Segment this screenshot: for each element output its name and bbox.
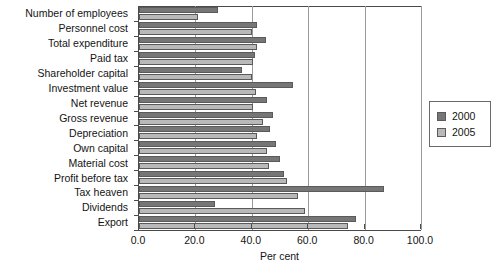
x-axis-tick-mark (194, 224, 195, 229)
bar-group (139, 21, 421, 36)
bar-2005 (139, 29, 252, 35)
bar-2000 (139, 112, 273, 118)
x-axis-tick-label: 80.0 (353, 234, 373, 246)
bar-group (139, 125, 421, 140)
y-axis-label: Dividends (0, 200, 133, 215)
x-axis-tick-label: 60.0 (297, 234, 317, 246)
x-axis-tick-label: 0.0 (131, 234, 146, 246)
chart-legend: 20002005 (429, 101, 491, 147)
bar-group (139, 111, 421, 126)
x-axis-tick-mark (420, 224, 421, 229)
bar-group (139, 96, 421, 111)
bar-2000 (139, 22, 257, 28)
bar-2000 (139, 186, 384, 192)
y-axis-label: Investment value (0, 81, 133, 96)
legend-label: 2005 (452, 127, 475, 138)
y-axis-label: Own capital (0, 140, 133, 155)
y-axis-label: Material cost (0, 155, 133, 170)
bar-group (139, 66, 421, 81)
legend-item: 2000 (437, 108, 484, 124)
x-axis-tick-mark (138, 224, 139, 229)
bar-2005 (139, 208, 305, 214)
y-axis-label: Number of employees (0, 6, 133, 21)
bar-group (139, 81, 421, 96)
x-axis-tick-label: 20.0 (184, 234, 204, 246)
bar-2005 (139, 44, 257, 50)
bar-2005 (139, 193, 298, 199)
bar-2000 (139, 201, 215, 207)
bar-2000 (139, 171, 284, 177)
y-axis-label: Tax heaven (0, 185, 133, 200)
y-axis-label: Total expenditure (0, 36, 133, 51)
y-axis-label: Net revenue (0, 96, 133, 111)
legend-item: 2005 (437, 124, 484, 140)
bar-2000 (139, 82, 293, 88)
x-axis-tick-label: 100.0 (407, 234, 433, 246)
bar-2000 (139, 97, 267, 103)
gridline (421, 6, 422, 230)
bar-group (139, 170, 421, 185)
legend-swatch-icon (437, 112, 446, 121)
plot-area (138, 6, 421, 230)
bar-group (139, 155, 421, 170)
bar-2000 (139, 52, 255, 58)
bar-group (139, 140, 421, 155)
bar-2005 (139, 148, 267, 154)
bar-group (139, 51, 421, 66)
bar-chart: Number of employeesPersonnel costTotal e… (0, 0, 502, 272)
y-axis-label: Depreciation (0, 126, 133, 141)
bar-2005 (139, 14, 198, 20)
y-axis-label: Profit before tax (0, 170, 133, 185)
legend-swatch-icon (437, 128, 446, 137)
bar-group (139, 185, 421, 200)
x-axis-tick-label: 40.0 (241, 234, 261, 246)
bar-2000 (139, 7, 218, 13)
y-axis-label: Gross revenue (0, 111, 133, 126)
x-axis-tick-mark (251, 224, 252, 229)
bar-2005 (139, 89, 256, 95)
bar-2000 (139, 67, 242, 73)
bar-2005 (139, 104, 253, 110)
x-axis-line (138, 230, 421, 231)
x-axis-tick-mark (307, 224, 308, 229)
bar-group (139, 6, 421, 21)
bar-2005 (139, 74, 252, 80)
bar-2000 (139, 37, 266, 43)
bar-2005 (139, 119, 263, 125)
bar-2005 (139, 59, 253, 65)
bar-2005 (139, 133, 257, 139)
bar-2005 (139, 223, 348, 229)
y-axis-label: Personnel cost (0, 21, 133, 36)
bar-2005 (139, 178, 287, 184)
bar-2000 (139, 126, 270, 132)
bar-2005 (139, 163, 269, 169)
bar-group (139, 200, 421, 215)
bar-2000 (139, 156, 280, 162)
bar-series-container (139, 6, 421, 230)
bar-2000 (139, 216, 356, 222)
y-axis-label: Paid tax (0, 51, 133, 66)
y-axis-label: Shareholder capital (0, 66, 133, 81)
legend-label: 2000 (452, 111, 475, 122)
bar-group (139, 215, 421, 230)
x-axis-title: Per cent (138, 250, 421, 262)
bar-2000 (139, 141, 276, 147)
x-axis-tick-mark (364, 224, 365, 229)
y-axis-label: Export (0, 215, 133, 230)
y-axis-category-labels: Number of employeesPersonnel costTotal e… (0, 6, 133, 230)
bar-group (139, 36, 421, 51)
